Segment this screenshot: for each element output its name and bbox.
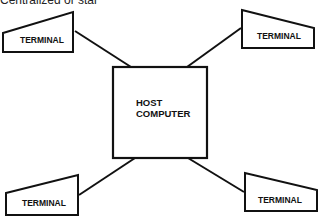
terminal-top-left-node: TERMINAL (3, 12, 73, 52)
edge-host-top-left (75, 31, 131, 67)
host-label-line-2: COMPUTER (136, 108, 191, 119)
host-computer-node: HOST COMPUTER (113, 67, 207, 158)
terminal-top-right-label: TERMINAL (257, 31, 301, 41)
terminal-top-right-node: TERMINAL (242, 10, 314, 48)
star-network-diagram: HOST COMPUTER TERMINAL TERMINAL TERMINAL… (0, 0, 321, 220)
edge-host-bottom-right (188, 158, 244, 192)
terminal-bottom-left-label: TERMINAL (22, 198, 66, 208)
terminal-top-left-label: TERMINAL (20, 35, 64, 45)
host-label-line-1: HOST (136, 97, 163, 108)
edge-host-top-right (187, 28, 241, 67)
terminal-bottom-left-node: TERMINAL (6, 175, 78, 215)
terminal-bottom-right-label: TERMINAL (258, 195, 302, 205)
terminal-bottom-right-node: TERMINAL (245, 173, 317, 211)
edge-host-bottom-left (79, 158, 135, 195)
